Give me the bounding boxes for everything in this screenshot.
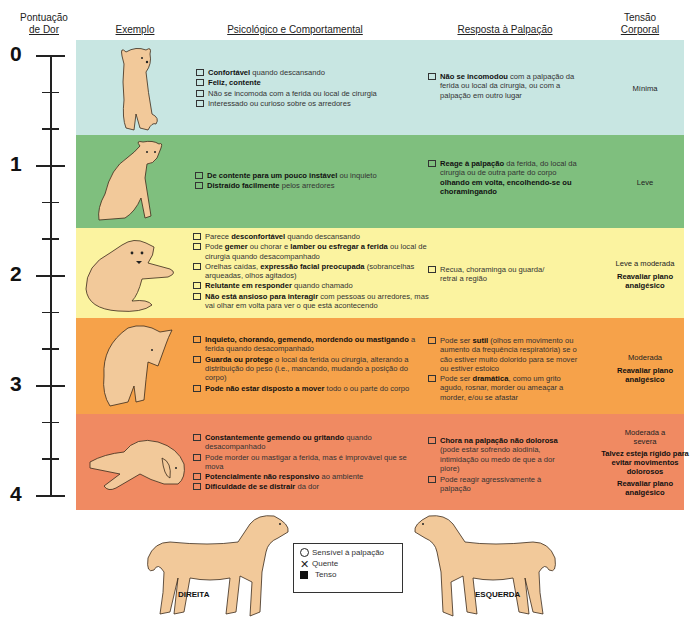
tension-level-1: Leve: [610, 178, 680, 187]
checkbox[interactable]: [428, 437, 436, 444]
psych-item[interactable]: Parece desconfortável quando descansando: [193, 232, 433, 241]
psych-item[interactable]: Inquieto, chorando, gemendo, mordendo ou…: [193, 335, 423, 354]
checkbox[interactable]: [428, 476, 436, 483]
palpation-item[interactable]: Recua, choraminga ou guarda/ retrai a re…: [428, 265, 558, 284]
psych-list-level-4: Constantemente gemendo ou gritando quand…: [193, 433, 423, 493]
major-tick: [36, 55, 65, 57]
psych-item[interactable]: Guarda ou protege o local da ferida ou c…: [193, 355, 423, 383]
minor-tick: [42, 458, 59, 460]
checkbox[interactable]: [428, 375, 436, 382]
checkbox[interactable]: [193, 233, 201, 240]
header-palpation: Resposta à Palpação: [445, 24, 565, 36]
psych-item[interactable]: Confortável quando descansando: [196, 68, 426, 77]
psych-list-level-2: Parece desconfortável quando descansando…: [193, 232, 433, 311]
palpation-list-level-4: Chora na palpação não dolorosa (pode est…: [428, 436, 558, 495]
minor-tick: [42, 422, 59, 424]
psych-item[interactable]: Relutante em responder quando chamado: [193, 281, 433, 290]
psych-item[interactable]: Dificuldade de se distrair da dor: [193, 482, 423, 491]
palpation-list-level-2: Recua, choraminga ou guarda/ retrai a re…: [428, 265, 558, 285]
header-pain-score-line2: de Dor: [14, 24, 74, 36]
minor-tick: [42, 348, 59, 350]
psych-item[interactable]: Feliz, contente: [196, 78, 426, 87]
scale-label-0: 0: [10, 42, 22, 66]
checkbox[interactable]: [193, 243, 201, 250]
tension-text: Moderada a severa: [600, 428, 690, 446]
scale-label-4: 4: [10, 482, 22, 506]
minor-tick: [42, 92, 59, 94]
legend-item-tense: Tenso: [300, 569, 396, 580]
palpation-item[interactable]: Pode ser sutil (olhos em movimento ou au…: [428, 336, 578, 373]
header-pain-score: Pontuação de Dor: [14, 12, 74, 36]
dog-lying-down-icon: [80, 428, 190, 498]
psych-item[interactable]: Distraído facilmente pelos arredores: [195, 181, 425, 190]
scale-label-2: 2: [10, 262, 22, 286]
dog-curled-up-icon: [82, 235, 182, 315]
psych-item[interactable]: Constantemente gemendo ou gritando quand…: [193, 433, 423, 452]
legend-label: Sensível à palpação: [312, 547, 384, 558]
dog-standing-left-side-icon: [408, 512, 563, 622]
tension-reassess: Reavaliar plano analgésico: [600, 479, 690, 497]
psych-item[interactable]: Pode não estar disposto a mover todo o o…: [193, 384, 423, 393]
header-pain-score-line1: Pontuação: [14, 12, 74, 24]
psych-item[interactable]: Interessado ou curioso sobre os arredore…: [196, 99, 426, 108]
tension-level-4: Moderada a severa Talvez esteja rígido p…: [600, 428, 690, 497]
palpation-item[interactable]: Reage à palpação da ferida, do local da …: [428, 159, 578, 196]
checkbox[interactable]: [193, 356, 201, 363]
major-tick: [36, 165, 65, 167]
major-tick: [36, 385, 65, 387]
checkbox[interactable]: [193, 336, 201, 343]
tension-level-3: Moderada Reavaliar plano analgésico: [605, 353, 685, 384]
checkbox[interactable]: [193, 263, 201, 270]
tension-reassess: Reavaliar plano analgésico: [605, 366, 685, 384]
circle-icon: [300, 548, 309, 557]
checkbox[interactable]: [428, 266, 436, 273]
legend-item-sensitive: Sensível à palpação: [300, 547, 396, 558]
palpation-item[interactable]: Chora na palpação não dolorosa (pode est…: [428, 436, 558, 473]
major-tick: [36, 275, 65, 277]
tension-level-2: Leve a moderada Reavaliar plano analgési…: [605, 259, 685, 290]
checkbox[interactable]: [193, 434, 201, 441]
checkbox[interactable]: [193, 454, 201, 461]
header-tension-line1: Tensão: [610, 12, 670, 24]
checkbox[interactable]: [196, 100, 204, 107]
tension-reassess: Reavaliar plano analgésico: [605, 272, 685, 290]
checkbox[interactable]: [193, 282, 201, 289]
checkbox[interactable]: [195, 182, 203, 189]
psych-item[interactable]: Não está ansioso para interagir com pess…: [193, 292, 433, 311]
psych-item[interactable]: De contente para um pouco instável ou in…: [195, 171, 425, 180]
tension-text: Leve a moderada: [605, 259, 685, 268]
left-side-label: ESQUERDA: [475, 590, 520, 599]
header-tension: Tensão Corporal: [610, 12, 670, 36]
checkbox[interactable]: [196, 90, 204, 97]
psych-item[interactable]: Orelhas caídas, expressão facial preocup…: [193, 262, 433, 281]
scale-label-3: 3: [10, 372, 22, 396]
tension-text: Leve: [610, 178, 680, 187]
checkbox[interactable]: [196, 79, 204, 86]
checkbox[interactable]: [195, 172, 203, 179]
scale-label-1: 1: [10, 152, 22, 176]
checkbox[interactable]: [193, 483, 201, 490]
checkbox[interactable]: [193, 385, 201, 392]
legend-item-hot: ✕ Quente: [300, 558, 396, 569]
x-icon: ✕: [300, 559, 309, 569]
palpation-item[interactable]: Não se incomodou com a palpação da ferid…: [428, 72, 578, 100]
checkbox[interactable]: [428, 337, 436, 344]
checkbox[interactable]: [193, 293, 201, 300]
checkbox[interactable]: [193, 473, 201, 480]
minor-tick: [42, 238, 59, 240]
checkbox[interactable]: [196, 69, 204, 76]
checkbox[interactable]: [428, 73, 436, 80]
checkbox[interactable]: [428, 160, 436, 167]
tension-text: Mínima: [610, 84, 680, 93]
psych-item[interactable]: Potencialmente não responsivo ao ambient…: [193, 472, 423, 481]
palpation-item[interactable]: Pode ser dramática, como um grito agudo,…: [428, 374, 578, 402]
tension-rigid: Talvez esteja rígido para evitar movimen…: [600, 449, 690, 476]
legend-label: Tenso: [315, 569, 336, 580]
psych-item[interactable]: Não se incomoda com a ferida ou local de…: [196, 89, 426, 98]
psych-item[interactable]: Pode gemer ou chorar e lamber ou esfrega…: [193, 242, 433, 261]
dog-standing-right-side-icon: [140, 512, 295, 622]
psych-item[interactable]: Pode morder ou mastigar a ferida, mas é …: [193, 453, 423, 472]
palpation-item[interactable]: Pode reagir agressivamente à palpação: [428, 475, 558, 494]
palpation-list-level-0: Não se incomodou com a palpação da ferid…: [428, 72, 578, 101]
minor-tick: [42, 312, 59, 314]
